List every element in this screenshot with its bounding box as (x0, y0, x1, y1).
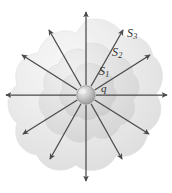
surface-label-s3: S3 (127, 27, 137, 41)
surface-label-s2: S2 (112, 46, 122, 60)
figure-canvas (0, 0, 172, 193)
surface-label-s1: S1 (99, 65, 109, 79)
point-charge (77, 86, 95, 104)
charge-label: q (101, 83, 107, 94)
gauss-law-figure: S3 S2 S1 q (0, 0, 172, 193)
